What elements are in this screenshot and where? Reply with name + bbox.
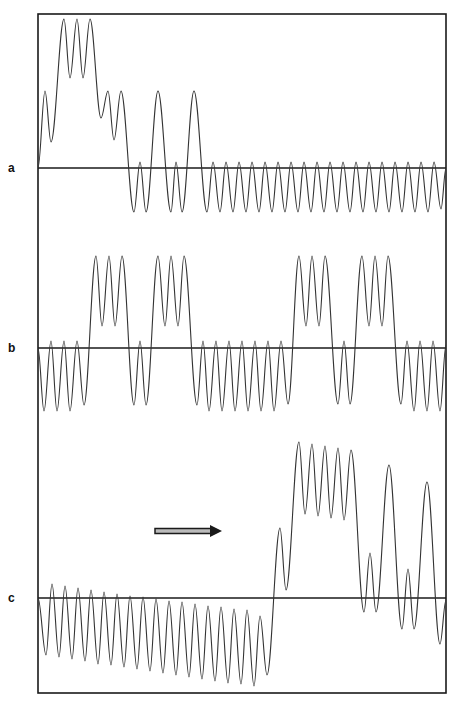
waveform-figure: [0, 0, 453, 705]
panel-label-b: b: [8, 341, 15, 355]
panel-label-a: a: [8, 161, 15, 175]
waveform-c: [38, 442, 446, 686]
panel-label-c: c: [8, 591, 15, 605]
waveform-b: [38, 256, 446, 411]
figure-frame: [38, 14, 446, 693]
right-arrow-icon: [155, 525, 222, 537]
waveform-a: [38, 19, 446, 212]
